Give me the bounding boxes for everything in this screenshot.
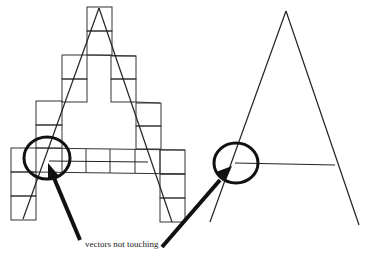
left-highlight-circle xyxy=(24,137,70,179)
right-a-vectors xyxy=(210,11,359,225)
caption: vectors not touching xyxy=(85,239,159,249)
diagram-canvas xyxy=(0,0,367,263)
left-a-vectors xyxy=(23,8,172,222)
left-arrow-icon xyxy=(48,163,80,240)
pixel-grid xyxy=(11,7,185,222)
